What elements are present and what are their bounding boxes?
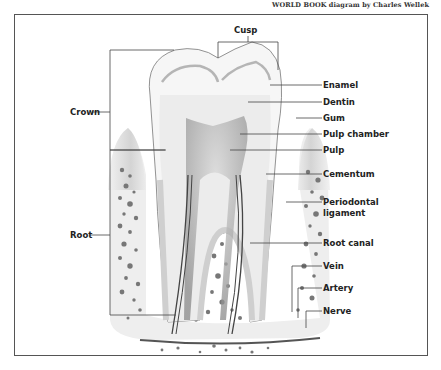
label-gum: Gum (323, 113, 345, 123)
label-dentin: Dentin (323, 97, 355, 107)
label-periodontal-ligament-1: Periodontal (323, 197, 379, 207)
label-periodontal-ligament-2: ligament (323, 208, 365, 218)
label-cusp: Cusp (234, 25, 257, 35)
label-pulp: Pulp (323, 145, 344, 155)
label-crown: Crown (70, 107, 100, 117)
label-artery: Artery (323, 283, 353, 293)
label-vein: Vein (323, 261, 344, 271)
label-nerve: Nerve (323, 306, 351, 316)
tooth-illustration (0, 0, 441, 370)
label-cementum: Cementum (323, 169, 375, 179)
label-pulp-chamber: Pulp chamber (323, 129, 389, 139)
gum-left (108, 128, 146, 190)
label-root-canal: Root canal (323, 238, 374, 248)
label-root: Root (70, 230, 92, 240)
label-enamel: Enamel (323, 80, 358, 90)
